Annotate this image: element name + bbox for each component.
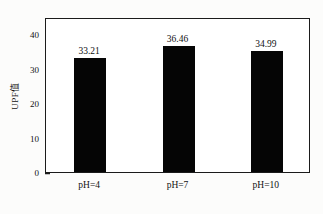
y-tick-label-1: 10 [0, 134, 45, 144]
y-tick-text-3: 30 [30, 65, 45, 75]
y-tick-text-4: 40 [30, 30, 45, 40]
y-tick-label-2: 20 [0, 99, 45, 109]
bar-chart: UPF值 0 10 20 30 40 33.21 36.46 34.99 pH=… [0, 0, 323, 214]
y-tick-label-3: 30 [0, 65, 45, 75]
y-tick-label-4: 40 [0, 30, 45, 40]
bar-2 [251, 51, 283, 172]
y-tick-text-0: 0 [35, 168, 46, 178]
bar-value-label-0: 33.21 [78, 46, 99, 56]
bar-1 [163, 46, 195, 172]
x-axis-label-1: pH=7 [167, 180, 189, 190]
x-axis-label-0: pH=4 [78, 180, 100, 190]
bar-value-label-2: 34.99 [255, 39, 276, 49]
bar-value-label-1: 36.46 [167, 34, 188, 44]
bar-0 [74, 58, 106, 172]
y-tick-text-2: 20 [30, 99, 45, 109]
y-tick-label-0: 0 [0, 168, 45, 178]
x-axis-label-2: pH=10 [253, 180, 279, 190]
y-tick-text-1: 10 [30, 134, 45, 144]
